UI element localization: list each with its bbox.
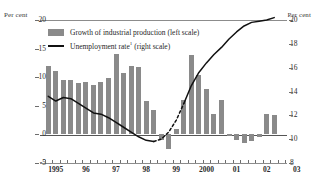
y-axis-left-tickmark: [35, 77, 39, 78]
x-axis-tickmark: [150, 160, 151, 163]
x-axis-tick-label: 03: [293, 165, 301, 174]
y-axis-right-tick-label: 10: [290, 134, 312, 143]
x-axis-tick-label: 02: [263, 165, 271, 174]
x-axis-tick-label: 96: [82, 165, 90, 174]
x-axis-tick-label: 1995: [48, 165, 63, 174]
x-axis-tickmark: [278, 160, 279, 163]
x-axis-tickmark: [255, 160, 256, 163]
x-axis-tickmark: [248, 160, 249, 163]
y-axis-left-tickmark: [35, 134, 39, 135]
x-axis-tickmark: [180, 160, 181, 163]
y-axis-right-tick-label: 20: [290, 15, 312, 24]
unemployment-line-dashed-break: [154, 103, 184, 141]
y-axis-right-tickmark: [289, 20, 293, 21]
unemployment-line-solid-early: [48, 96, 153, 141]
x-axis-tickmark: [82, 160, 83, 163]
x-axis-tickmark: [285, 160, 286, 163]
x-axis-tickmark: [60, 160, 61, 163]
x-axis-tickmark: [233, 160, 234, 163]
y-axis-right-tickmark: [289, 163, 293, 164]
x-axis-tick-label: 01: [233, 165, 241, 174]
y-axis-right-tickmark: [289, 44, 293, 45]
y-axis-left-tickmark: [35, 106, 39, 107]
x-axis-tickmark: [218, 160, 219, 163]
y-axis-right-tickmark: [289, 115, 293, 116]
y-axis-right-tick-label: 16: [290, 63, 312, 72]
x-axis-tickmark: [105, 160, 106, 163]
x-axis-tickmark: [225, 160, 226, 163]
x-axis-tickmark: [90, 160, 91, 163]
x-axis-tick-label: 97: [112, 165, 120, 174]
x-axis-tickmark: [188, 160, 189, 163]
y-axis-left-tickmark: [35, 49, 39, 50]
x-axis-tick-label: 98: [142, 165, 150, 174]
y-axis-right-tickmark: [289, 68, 293, 69]
unemployment-line-solid-late: [184, 18, 274, 104]
x-axis-tickmark: [127, 160, 128, 163]
x-axis-tickmark: [142, 160, 143, 163]
x-axis-tickmark: [67, 160, 68, 163]
x-axis-tickmark: [263, 160, 264, 163]
x-axis-tickmark: [45, 160, 46, 163]
x-axis-tickmark: [112, 160, 113, 163]
x-axis-tickmark: [210, 160, 211, 163]
x-axis-tickmark: [75, 160, 76, 163]
x-axis-tickmark: [270, 160, 271, 163]
x-axis-tickmark: [120, 160, 121, 163]
x-axis-tickmark: [97, 160, 98, 163]
x-axis-tick-label: 2000: [199, 165, 214, 174]
y-axis-right-tickmark: [289, 92, 293, 93]
x-axis-tickmark: [157, 160, 158, 163]
x-axis-tickmark: [203, 160, 204, 163]
x-axis-tickmark: [52, 160, 53, 163]
x-axis-tickmark: [240, 160, 241, 163]
chart-container: Per cent Per cent Growth of industrial p…: [0, 0, 314, 186]
x-axis-tick-label: 99: [173, 165, 181, 174]
y-axis-right-tick-label: 14: [290, 87, 312, 96]
y-axis-left-tickmark: [35, 163, 39, 164]
x-axis-tickmark: [165, 160, 166, 163]
x-axis-tickmark: [135, 160, 136, 163]
y-axis-right-tick-label: 12: [290, 110, 312, 119]
x-axis-tickmark: [173, 160, 174, 163]
y-axis-right-tick-label: 18: [290, 39, 312, 48]
y-axis-right-tickmark: [289, 139, 293, 140]
x-axis-tickmark: [195, 160, 196, 163]
unemployment-line-series: [0, 0, 314, 186]
y-axis-left-tickmark: [35, 20, 39, 21]
